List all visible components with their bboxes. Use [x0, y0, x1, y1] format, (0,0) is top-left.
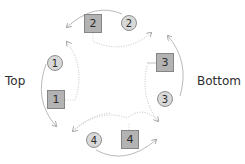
label-bottom: Bottom [197, 74, 241, 88]
circle-node-3: 3 [157, 91, 173, 107]
square-node-4: 4 [121, 130, 139, 149]
cycle-diagram: Top Bottom 2 2 1 1 3 3 4 4 [0, 0, 245, 164]
square-node-3: 3 [156, 53, 174, 72]
label-top: Top [5, 74, 25, 88]
dotted-arrow-top [94, 33, 151, 47]
circle-node-2: 2 [121, 15, 137, 31]
square-node-1: 1 [47, 90, 65, 109]
dotted-arrow-left [67, 42, 79, 100]
dotted-arrow-right [145, 66, 158, 121]
circle-node-1: 1 [47, 55, 63, 71]
circle-node-4: 4 [86, 132, 102, 148]
dotted-arrow-bottom [73, 112, 158, 131]
square-node-2: 2 [84, 14, 102, 33]
